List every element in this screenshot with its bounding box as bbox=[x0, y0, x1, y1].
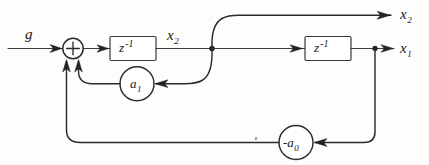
wire-branch-to-output-x2 bbox=[212, 15, 391, 48]
delay-block-2-base: z bbox=[314, 40, 319, 55]
label-node-x2-subscript: 2 bbox=[174, 36, 179, 46]
label-delay-block-1: z-1 bbox=[119, 41, 133, 55]
delay-block-1-base: z bbox=[119, 40, 124, 55]
label-gain-a0-subscript: 0 bbox=[294, 143, 299, 153]
label-output-x2: x2 bbox=[400, 7, 411, 22]
delay-block-2-exponent: -1 bbox=[320, 38, 328, 49]
label-output-x1-subscript: 1 bbox=[407, 49, 412, 59]
label-gain-a1-base: a bbox=[130, 76, 137, 91]
diagram-canvas bbox=[0, 0, 429, 165]
label-input-g: g bbox=[25, 27, 33, 42]
wire-gain-a0-to-summer bbox=[67, 62, 280, 143]
label-output-x2-base: x bbox=[400, 6, 407, 22]
label-node-x2-base: x bbox=[167, 27, 174, 43]
label-gain-a1: a1 bbox=[130, 77, 141, 90]
wire-gain-a1-to-summer bbox=[79, 62, 121, 84]
label-gain-a0: -a0 bbox=[283, 136, 298, 149]
label-delay-block-2: z-1 bbox=[314, 41, 328, 55]
label-input-g-text: g bbox=[25, 26, 33, 42]
label-output-x1: x1 bbox=[400, 41, 411, 56]
wire-node-x1-to-gain-a0 bbox=[315, 49, 375, 143]
wire-node-x2-to-gain-a1 bbox=[156, 49, 212, 84]
label-output-x2-subscript: 2 bbox=[407, 15, 412, 25]
signal-flow-diagram: g z-1 x2 z-1 x2 x1 a1 -a0 bbox=[0, 0, 429, 165]
label-gain-a0-base: a bbox=[287, 135, 294, 150]
delay-block-1-exponent: -1 bbox=[125, 38, 133, 49]
label-output-x1-base: x bbox=[400, 40, 407, 56]
label-node-x2: x2 bbox=[167, 28, 178, 43]
label-gain-a1-subscript: 1 bbox=[137, 84, 142, 94]
